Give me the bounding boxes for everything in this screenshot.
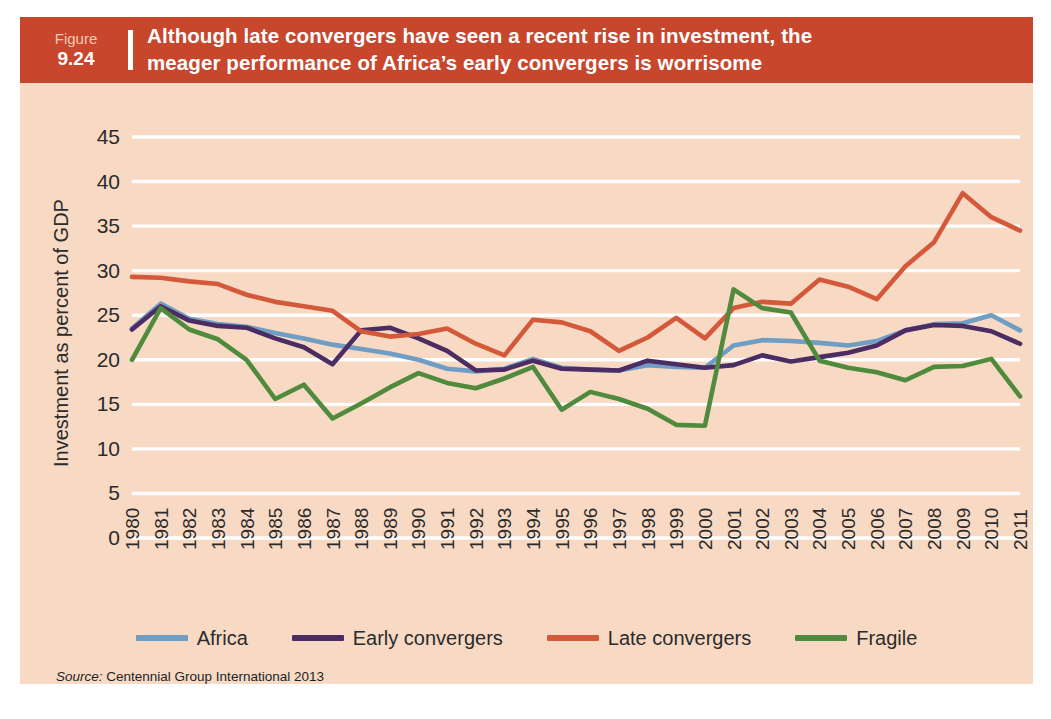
y-axis-title: Investment as percent of GDP <box>50 143 73 523</box>
source-text: Centennial Group International 2013 <box>106 669 324 684</box>
x-axis-tick-label: 2006 <box>867 508 888 550</box>
legend-label-early-convergers: Early convergers <box>353 627 503 650</box>
x-axis-tick-label: 1981 <box>151 508 172 550</box>
legend-label-africa: Africa <box>197 627 248 650</box>
page-title: Although late convergers have seen a rec… <box>147 23 812 76</box>
legend-item-fragile[interactable]: Fragile <box>795 627 917 650</box>
x-axis-tick-label: 2001 <box>724 508 745 550</box>
x-axis-tick-label: 1992 <box>466 508 487 550</box>
legend-item-early-convergers[interactable]: Early convergers <box>292 627 503 650</box>
figure-number-block: Figure 9.24 <box>20 30 126 70</box>
source-label: Source: <box>56 669 103 684</box>
legend-swatch-early-convergers <box>292 635 344 641</box>
x-axis-tick-label: 2003 <box>781 508 802 550</box>
x-axis-tick-label: 1991 <box>437 508 458 550</box>
figure-panel: Figure 9.24 Although late convergers hav… <box>20 17 1033 684</box>
x-axis-tick-label: 1993 <box>494 508 515 550</box>
legend-item-late-convergers[interactable]: Late convergers <box>547 627 751 650</box>
y-axis-tick-label: 40 <box>97 170 120 193</box>
y-axis-tick-label: 0 <box>108 526 120 549</box>
x-axis-tick-label: 1980 <box>122 508 143 550</box>
x-axis-tick-label: 1987 <box>323 508 344 550</box>
x-axis-tick-label: 2008 <box>924 508 945 550</box>
y-axis-title-holder: Investment as percent of GDP <box>50 143 84 523</box>
x-axis-tick-label: 2000 <box>695 508 716 550</box>
legend-swatch-late-convergers <box>547 635 599 641</box>
y-axis-tick-label: 35 <box>97 214 120 237</box>
y-axis-tick-label: 20 <box>97 348 120 371</box>
y-axis-tick-label: 15 <box>97 392 120 415</box>
y-axis-tick-label: 25 <box>97 303 120 326</box>
figure-header: Figure 9.24 Although late convergers hav… <box>20 17 1033 83</box>
figure-word: Figure <box>26 30 126 47</box>
x-axis-tick-label: 1994 <box>523 507 544 550</box>
legend-label-late-convergers: Late convergers <box>608 627 751 650</box>
title-line-1: Although late convergers have seen a rec… <box>147 23 812 50</box>
x-axis-tick-label: 2007 <box>895 508 916 550</box>
legend-swatch-africa <box>136 635 188 641</box>
source-note: Source: Centennial Group International 2… <box>56 669 324 684</box>
y-axis-tick-label: 30 <box>97 259 120 282</box>
x-axis-tick-label: 2005 <box>838 508 859 550</box>
legend-swatch-fragile <box>795 635 847 641</box>
x-axis-tick-label: 1984 <box>237 507 258 550</box>
legend-item-africa[interactable]: Africa <box>136 627 248 650</box>
x-axis-tick-label: 1995 <box>552 508 573 550</box>
x-axis-tick-label: 1996 <box>580 508 601 550</box>
x-axis-tick-label: 2010 <box>981 508 1002 550</box>
x-axis-tick-label: 1998 <box>638 508 659 550</box>
legend-label-fragile: Fragile <box>856 627 917 650</box>
y-axis-tick-label: 45 <box>97 125 120 148</box>
x-axis-tick-label: 1985 <box>265 508 286 550</box>
chart-legend: Africa Early convergers Late convergers … <box>20 618 1033 658</box>
header-divider <box>128 30 133 70</box>
x-axis-tick-label: 2004 <box>809 507 830 550</box>
x-axis-tick-label: 1983 <box>208 508 229 550</box>
title-line-2: meager performance of Africa’s early con… <box>147 50 812 77</box>
line-chart: 0510152025303540451980198119821983198419… <box>20 83 1033 553</box>
x-axis-tick-label: 1990 <box>408 508 429 550</box>
y-axis-tick-label: 10 <box>97 437 120 460</box>
x-axis-tick-label: 1997 <box>609 508 630 550</box>
x-axis-tick-label: 2011 <box>1010 509 1031 550</box>
plot-area: 0510152025303540451980198119821983198419… <box>20 83 1033 684</box>
x-axis-tick-label: 1999 <box>666 508 687 550</box>
x-axis-tick-label: 1989 <box>380 508 401 550</box>
x-axis-tick-label: 1982 <box>179 508 200 550</box>
figure-number: 9.24 <box>26 48 126 70</box>
x-axis-tick-label: 2009 <box>953 508 974 550</box>
x-axis-tick-label: 1988 <box>351 508 372 550</box>
x-axis-tick-label: 1986 <box>294 508 315 550</box>
x-axis-tick-label: 2002 <box>752 508 773 550</box>
y-axis-tick-label: 5 <box>108 481 120 504</box>
